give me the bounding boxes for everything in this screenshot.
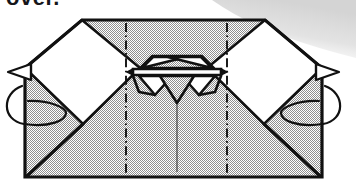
diagram-canvas bbox=[0, 0, 356, 186]
rotation-arrowhead-right bbox=[316, 64, 339, 80]
pleat-horizontal-band bbox=[133, 69, 221, 75]
caption-fragment: over. bbox=[6, 0, 60, 9]
rotation-arrowhead-left bbox=[8, 64, 31, 80]
origami-diagram: over. bbox=[0, 0, 356, 186]
